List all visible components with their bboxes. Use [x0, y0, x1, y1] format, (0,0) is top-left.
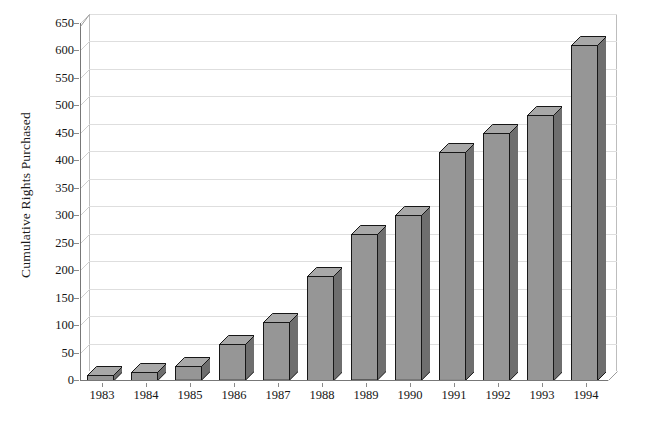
x-tick-mark: [498, 383, 499, 387]
bar-1991: [439, 143, 474, 380]
bar-3d-body: [395, 206, 430, 380]
y-tick-mark: [74, 78, 79, 79]
bar-side-face: [466, 144, 475, 380]
plot-area: [80, 23, 608, 380]
gridline-depth-riser: [80, 96, 93, 109]
bar-front-face: [176, 367, 202, 380]
y-tick-mark: [74, 215, 79, 216]
bar-3d-body: [351, 225, 386, 380]
gridline: [89, 41, 617, 42]
y-tick-label: 650: [38, 17, 74, 29]
gridline: [89, 96, 617, 97]
bar-1984: [131, 363, 166, 380]
y-tick-mark: [74, 298, 79, 299]
y-tick-mark: [74, 188, 79, 189]
y-tick-label: 250: [38, 237, 74, 249]
gridline-depth-riser: [80, 344, 93, 357]
y-axis-title-text: Cumulative Rights Purchased: [18, 112, 34, 278]
bar-1989: [351, 225, 386, 380]
bar-3d-body: [219, 335, 254, 380]
y-tick-label: 450: [38, 127, 74, 139]
bar-3d-body: [175, 357, 210, 380]
x-tick-mark: [190, 383, 191, 387]
x-tick-mark: [410, 383, 411, 387]
x-tick-mark: [322, 383, 323, 387]
y-tick-label: 350: [38, 182, 74, 194]
bar-front-face: [352, 235, 378, 380]
gridline: [89, 14, 617, 15]
x-tick-label: 1993: [520, 388, 564, 402]
bar-side-face: [378, 226, 387, 380]
bar-3d-body: [131, 363, 166, 380]
x-tick-label: 1991: [432, 388, 476, 402]
y-tick-label: 300: [38, 209, 74, 221]
bar-side-face: [334, 267, 343, 380]
x-tick-label: 1992: [476, 388, 520, 402]
gridline-depth-riser: [80, 124, 93, 137]
gridline-depth-riser: [80, 151, 93, 164]
bar-front-face: [528, 115, 554, 380]
gridline: [89, 69, 617, 70]
y-tick-label: 600: [38, 44, 74, 56]
y-axis-title: Cumulative Rights Purchased: [14, 0, 38, 390]
bar-1988: [307, 267, 342, 380]
bar-1994: [571, 36, 606, 380]
x-tick-label: 1994: [564, 388, 608, 402]
gridline-depth-riser: [80, 69, 93, 82]
bar-front-face: [88, 375, 114, 380]
bar-chart-figure: Cumulative Rights Purchased 050100150200…: [0, 0, 658, 426]
bar-front-face: [264, 323, 290, 380]
gridline-depth-riser: [80, 179, 93, 192]
x-tick-label: 1990: [388, 388, 432, 402]
y-tick-label: 400: [38, 154, 74, 166]
bar-front-face: [396, 216, 422, 380]
x-tick-mark: [454, 383, 455, 387]
y-tick-label: 200: [38, 264, 74, 276]
floor-right-depth-edge: [608, 371, 622, 385]
y-tick-label: 150: [38, 292, 74, 304]
bar-1992: [483, 124, 518, 380]
bar-1985: [175, 357, 210, 380]
gridline-depth-riser: [80, 289, 93, 302]
gridline-depth-riser: [80, 316, 93, 329]
bar-3d-body: [439, 143, 474, 380]
bar-1990: [395, 206, 430, 380]
x-tick-mark: [102, 383, 103, 387]
y-tick-label: 100: [38, 319, 74, 331]
y-tick-mark: [74, 23, 79, 24]
bar-3d-body: [263, 313, 298, 380]
x-tick-label: 1988: [300, 388, 344, 402]
x-tick-mark: [234, 383, 235, 387]
y-tick-label: 550: [38, 72, 74, 84]
bar-side-face: [290, 314, 299, 380]
x-tick-mark: [146, 383, 147, 387]
y-tick-mark: [74, 50, 79, 51]
x-tick-label: 1987: [256, 388, 300, 402]
bar-front-face: [220, 345, 246, 380]
x-tick-mark: [278, 383, 279, 387]
bar-front-face: [308, 276, 334, 380]
x-tick-label: 1986: [212, 388, 256, 402]
bar-side-face: [598, 36, 607, 380]
bar-3d-body: [307, 267, 342, 380]
y-tick-label: 500: [38, 99, 74, 111]
bar-front-face: [484, 133, 510, 380]
bar-3d-body: [87, 366, 122, 380]
gridline-depth-riser: [80, 234, 93, 247]
y-tick-mark: [74, 325, 79, 326]
x-tick-label: 1985: [168, 388, 212, 402]
x-tick-label: 1983: [80, 388, 124, 402]
bar-1993: [527, 106, 562, 380]
bar-3d-body: [483, 124, 518, 380]
bar-front-face: [440, 153, 466, 380]
y-axis-line: [80, 23, 81, 380]
y-tick-mark: [74, 243, 79, 244]
bar-1986: [219, 335, 254, 380]
y-tick-mark: [74, 353, 79, 354]
x-tick-mark: [586, 383, 587, 387]
y-tick-mark: [74, 160, 79, 161]
bar-1987: [263, 313, 298, 380]
gridline-depth-riser: [80, 206, 93, 219]
y-tick-label: 50: [38, 347, 74, 359]
y-tick-label: 0: [38, 374, 74, 386]
